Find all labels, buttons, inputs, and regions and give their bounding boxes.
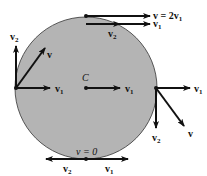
- right-point-vectors: v1 v2 v: [152, 83, 203, 145]
- svg-text:v2: v2: [10, 31, 19, 44]
- svg-text:v1: v1: [194, 83, 203, 96]
- svg-text:v: v: [47, 49, 52, 60]
- svg-text:v = 0: v = 0: [76, 146, 97, 157]
- rolling-wheel-diagram: v = 2v1 v1 v2 v2 v v1 C v1 v1 v2 v v = 0…: [0, 0, 207, 176]
- svg-text:v1: v1: [105, 163, 114, 176]
- svg-text:v2: v2: [152, 132, 161, 145]
- svg-text:v2: v2: [63, 163, 72, 176]
- svg-text:C: C: [82, 72, 89, 83]
- svg-text:v: v: [188, 128, 193, 139]
